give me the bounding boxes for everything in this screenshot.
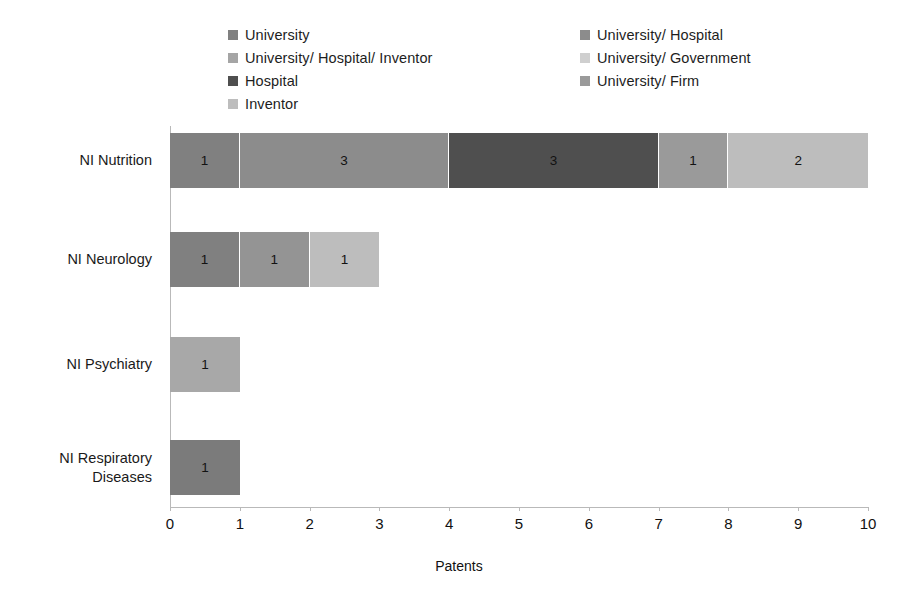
x-tick-label: 6	[569, 515, 609, 532]
category-label-text: NI Nutrition	[79, 151, 152, 170]
bar-segment-value: 1	[201, 253, 209, 267]
bar-segment-value: 1	[201, 358, 209, 372]
x-tick-mark	[589, 507, 590, 511]
x-tick-mark	[310, 507, 311, 511]
category-label-line: NI Psychiatry	[67, 355, 152, 374]
bar-segment[interactable]: 3	[449, 133, 658, 188]
category-label-line: NI Respiratory	[59, 449, 152, 468]
bar-segment-value: 3	[550, 154, 558, 168]
bar-segment-value: 2	[794, 154, 802, 168]
bar-segment[interactable]: 1	[659, 133, 729, 188]
bar-segment-value: 3	[340, 154, 348, 168]
x-tick-mark	[868, 507, 869, 511]
bar-segment[interactable]: 1	[170, 133, 240, 188]
bar-row: 13312	[170, 133, 868, 188]
category-label-text: NI Neurology	[67, 250, 152, 269]
x-tick-label: 0	[150, 515, 190, 532]
category-label-line: Diseases	[59, 468, 152, 487]
x-tick-mark	[449, 507, 450, 511]
bar-row: 1	[170, 337, 240, 392]
x-axis-title: Patents	[0, 558, 918, 574]
bar-segment-value: 1	[201, 461, 209, 475]
bar-segment[interactable]: 1	[170, 337, 240, 392]
category-label: NI Nutrition	[0, 133, 160, 188]
category-label-text: NI RespiratoryDiseases	[59, 449, 152, 487]
x-tick-label: 1	[220, 515, 260, 532]
bar-segment[interactable]: 3	[240, 133, 449, 188]
x-tick-label: 5	[499, 515, 539, 532]
bar-segment-value: 1	[201, 154, 209, 168]
x-tick-label: 10	[848, 515, 888, 532]
bar-segment-value: 1	[270, 253, 278, 267]
x-tick-label: 9	[778, 515, 818, 532]
x-tick-label: 7	[639, 515, 679, 532]
x-tick-mark	[659, 507, 660, 511]
bar-segment[interactable]: 1	[310, 232, 380, 287]
x-tick-label: 2	[290, 515, 330, 532]
x-tick-mark	[240, 507, 241, 511]
x-tick-label: 8	[708, 515, 748, 532]
x-tick-label: 4	[429, 515, 469, 532]
x-tick-label: 3	[359, 515, 399, 532]
bar-row: 111	[170, 232, 379, 287]
x-tick-mark	[379, 507, 380, 511]
x-tick-mark	[519, 507, 520, 511]
bar-segment[interactable]: 1	[240, 232, 310, 287]
category-label: NI Psychiatry	[0, 337, 160, 392]
category-label-line: NI Neurology	[67, 250, 152, 269]
bar-segment[interactable]: 1	[170, 440, 240, 495]
category-label: NI Neurology	[0, 232, 160, 287]
bar-segment-value: 1	[689, 154, 697, 168]
bar-row: 1	[170, 440, 240, 495]
x-tick-mark	[170, 507, 171, 511]
category-label-text: NI Psychiatry	[67, 355, 152, 374]
category-label-line: NI Nutrition	[79, 151, 152, 170]
bar-segment-value: 1	[341, 253, 349, 267]
category-label: NI RespiratoryDiseases	[0, 440, 160, 495]
x-tick-mark	[728, 507, 729, 511]
chart-plot-area: NI NutritionNI NeurologyNI PsychiatryNI …	[0, 0, 918, 610]
bar-segment[interactable]: 1	[170, 232, 240, 287]
bar-segment[interactable]: 2	[728, 133, 868, 188]
x-tick-mark	[798, 507, 799, 511]
